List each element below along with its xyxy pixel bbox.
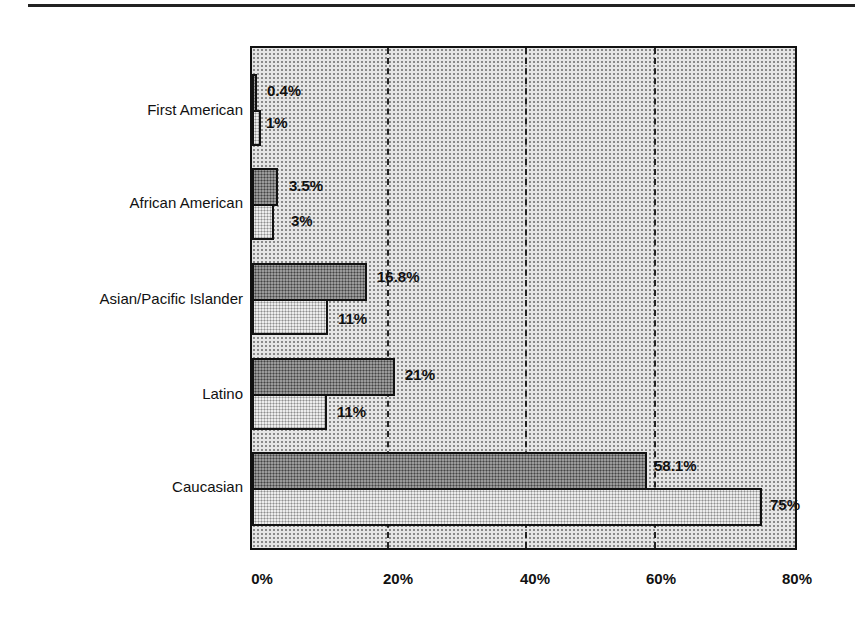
category-label: First American: [147, 101, 243, 119]
bar-hospice-first-american: [252, 74, 257, 112]
bar-county-asian-pacific: [252, 299, 328, 335]
value-label-hospice: 21%: [405, 366, 435, 384]
top-rule: [28, 4, 855, 7]
category-label: Caucasian: [172, 478, 243, 496]
value-label-hospice: 3.5%: [289, 177, 323, 195]
value-label-county: 11%: [337, 403, 366, 421]
value-label-county: 75%: [770, 496, 800, 514]
value-label-county: 11%: [338, 310, 367, 328]
bar-hospice-african-american: [252, 168, 278, 206]
x-tick-label: 40%: [520, 570, 550, 587]
value-label-hospice: 58.1%: [654, 457, 697, 475]
value-label-hospice: 16.8%: [377, 268, 420, 286]
x-tick-label: 60%: [646, 570, 676, 587]
category-label: African American: [130, 194, 243, 212]
bar-hospice-latino: [252, 358, 395, 396]
bar-county-caucasian: [252, 488, 762, 526]
value-label-county: 1%: [266, 114, 288, 132]
value-label-county: 3%: [291, 212, 313, 230]
value-label-hospice: 0.4%: [267, 82, 301, 100]
bar-county-latino: [252, 394, 327, 430]
bar-county-first-american: [252, 110, 261, 146]
plot-area: Hospice County: [250, 46, 797, 550]
x-tick-label: 0%: [251, 570, 273, 587]
category-label: Latino: [202, 385, 243, 403]
x-tick-label: 20%: [383, 570, 413, 587]
bar-county-african-american: [252, 204, 274, 240]
category-label: Asian/Pacific Islander: [100, 290, 243, 308]
bar-hospice-asian-pacific: [252, 263, 367, 301]
bar-hospice-caucasian: [252, 452, 647, 490]
x-tick-label: 80%: [782, 570, 812, 587]
